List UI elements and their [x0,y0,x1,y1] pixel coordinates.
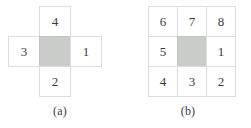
cell-r0c2: 8 [206,6,236,37]
cell-center-shaded [39,36,71,67]
cross-neighbourhood-diagram: 4 3 1 2 [8,6,102,96]
caption-panel-a: (a) [0,104,120,119]
cell-left: 3 [8,36,40,67]
cell-r1c1-shaded [177,36,207,67]
caption-panel-b: (b) [125,104,251,119]
cell-r0c1: 7 [177,6,207,37]
cell-r1c0: 5 [148,36,178,67]
figure-panel-b: 6 7 8 5 1 4 3 2 (b) [125,0,251,128]
figure-panel-a: 4 3 1 2 (a) [0,0,120,128]
cell-top: 4 [39,6,71,37]
cell-r2c1: 3 [177,66,207,97]
cell-r2c2: 2 [206,66,236,97]
grid-neighbourhood-diagram: 6 7 8 5 1 4 3 2 [148,6,235,96]
cell-bottom: 2 [39,66,71,97]
cell-r2c0: 4 [148,66,178,97]
cell-r1c2: 1 [206,36,236,67]
cell-right: 1 [70,36,102,67]
cell-r0c0: 6 [148,6,178,37]
